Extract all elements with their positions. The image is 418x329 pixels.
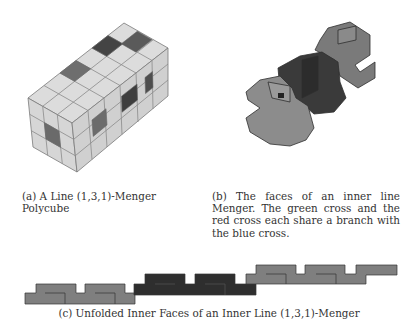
caption-b: (b) The faces of an inner line Menger. T… [212, 190, 400, 239]
unfolded-inner-faces-figure [0, 255, 418, 307]
left-gray-piece [25, 284, 135, 304]
line-menger-polycube-figure [0, 0, 210, 185]
inner-faces-crosses-figure [210, 0, 418, 185]
caption-c: (c) Unfolded Inner Faces of an Inner Lin… [0, 307, 418, 319]
middle-dark-piece [134, 274, 256, 295]
right-gray-piece [246, 265, 397, 284]
caption-a: (a) A Line (1,3,1)-Menger Polycube [22, 190, 187, 214]
